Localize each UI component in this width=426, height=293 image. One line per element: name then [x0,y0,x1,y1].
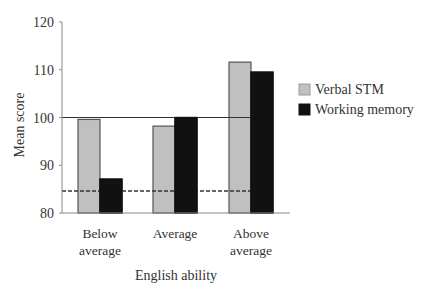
bar-working-memory-overlay [100,179,122,213]
x-category-label: Below [82,226,117,241]
x-axis-title: English ability [135,268,217,283]
legend-label: Working memory [315,102,414,117]
y-tick-label: 110 [34,63,54,78]
y-tick-label: 80 [40,206,54,221]
bar-working-memory-overlay [175,118,197,214]
y-tick-label: 120 [33,15,54,30]
y-tick-label: 100 [33,111,54,126]
x-category-label: Average [153,226,198,241]
bar-verbal-stm [153,126,175,213]
bar-working-memory-overlay [251,72,273,213]
legend-label: Verbal STM [315,82,384,97]
bar-verbal-stm [78,119,100,213]
legend-swatch [299,104,310,115]
y-tick-label: 90 [40,158,54,173]
legend: Verbal STMWorking memory [299,82,414,117]
y-axis-title: Mean score [12,93,27,158]
legend-swatch [299,84,310,95]
x-category-label: average [79,243,121,258]
bar-chart: 8090100110120 BelowaverageAverageAboveav… [0,0,426,293]
category-labels: BelowaverageAverageAboveaverage [79,226,272,258]
x-category-label: Above [233,226,269,241]
y-axis-ticks: 8090100110120 [33,15,62,221]
x-category-label: average [230,243,272,258]
